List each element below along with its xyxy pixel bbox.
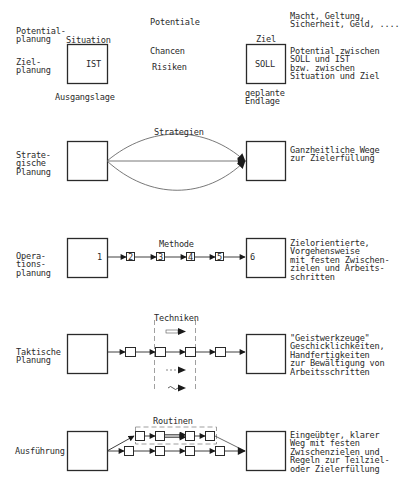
method-start-number: 1	[97, 253, 102, 261]
ziel-label: Ziel	[256, 35, 276, 43]
potentiale-label: Potentiale	[150, 18, 200, 26]
row-taktisch	[68, 320, 286, 392]
ausfuehrung-label: Ausführung	[15, 447, 65, 455]
method-end-number: 6	[250, 253, 255, 261]
soll-box-label: SOLL	[255, 60, 275, 68]
zielplanung-label: Ziel- planung	[16, 58, 51, 75]
strategy-path-upper	[107, 134, 245, 161]
taktische-planung-label: Taktische Planung	[16, 348, 61, 365]
technique-wavy-arrow-icon	[168, 387, 178, 390]
potential-description: Potential zwischen SOLL und IST bzw. zwi…	[290, 47, 380, 81]
method-step-5-number: 5	[217, 253, 222, 261]
geplante-endlage-label: geplante Endlage	[245, 89, 285, 106]
row-strategisch	[68, 134, 286, 190]
strategy-end-box	[247, 142, 286, 181]
strategy-description: Ganzheitliche Wege zur Zielerfüllung	[290, 146, 380, 163]
strategische-planung-label: Strate- gische Planung	[16, 151, 51, 176]
routinen-label: Routinen	[153, 417, 193, 425]
technique-hollow-arrow-icon	[166, 330, 178, 333]
method-step-3-number: 3	[158, 253, 163, 261]
routine-end-box	[247, 432, 286, 471]
routine-description: Eingeübter, klarer Weg mit festen Zwisch…	[290, 431, 389, 473]
situation-label: Situation	[66, 36, 111, 44]
techniken-label: Techniken	[154, 314, 199, 322]
ist-box-label: IST	[86, 60, 101, 68]
ausgangslage-label: Ausgangslage	[55, 93, 115, 101]
motives-text: Macht, Geltung, Sicherheit, Geld, ....	[290, 12, 399, 29]
technique-description: "Geistwerkzeuge" Geschicklichkeiten, Han…	[290, 334, 385, 376]
risiken-label: Risiken	[152, 63, 187, 71]
strategy-start-box	[68, 142, 108, 181]
technique-start-box	[68, 335, 108, 374]
method-description: Zielorientierte, Vorgehensweise mit fest…	[290, 239, 389, 281]
strategien-label: Strategien	[154, 128, 204, 136]
routines-dashed-group	[136, 427, 217, 444]
strategy-path-lower	[107, 161, 245, 190]
operationsplanung-label: Opera- tions- planung	[16, 252, 51, 277]
row-ausfuehrung	[68, 427, 286, 471]
routine-start-box	[68, 432, 108, 471]
method-step-2-number: 2	[128, 253, 133, 261]
chancen-label: Chancen	[150, 47, 185, 55]
potentialplanung-label: Potential- planung	[16, 27, 66, 44]
method-step-4-number: 4	[188, 253, 193, 261]
methode-label: Methode	[159, 240, 194, 248]
technique-end-box	[247, 335, 286, 374]
